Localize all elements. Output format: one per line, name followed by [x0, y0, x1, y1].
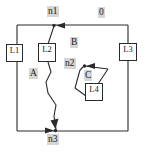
element-box-l4: L4 [85, 83, 103, 101]
node-dot-n2 [83, 64, 86, 67]
node-label-n3: n3 [47, 134, 59, 145]
region-label-a: A [29, 68, 38, 79]
diagram-canvas [0, 0, 145, 157]
circuit-loop-diagram: n1 n2 n3 A B C 0 L1 L2 L3 L4 [0, 0, 145, 157]
element-box-l1: L1 [6, 44, 23, 62]
middle-branch-path [46, 26, 56, 129]
branch-n1-to-L2 [48, 26, 54, 44]
region-label-c: C [84, 70, 92, 81]
node-dot-n3 [54, 129, 57, 132]
element-box-l2: L2 [38, 43, 56, 62]
node-label-n1: n1 [47, 6, 59, 17]
node-label-n2: n2 [64, 58, 76, 69]
c-loop-right [98, 69, 108, 84]
node-dot-n1 [52, 24, 55, 27]
arrowhead-into-n3 [45, 128, 54, 134]
region-label-b: B [70, 37, 78, 48]
arrowhead-into-n1 [56, 23, 65, 29]
element-box-l3: L3 [119, 43, 137, 61]
branch-L2-to-n3 [46, 62, 56, 129]
arrowhead-branch-into-n3 [51, 119, 59, 130]
c-loop-left [75, 70, 80, 88]
region-label-o: 0 [98, 7, 105, 18]
arrowhead-into-n2 [86, 63, 95, 69]
